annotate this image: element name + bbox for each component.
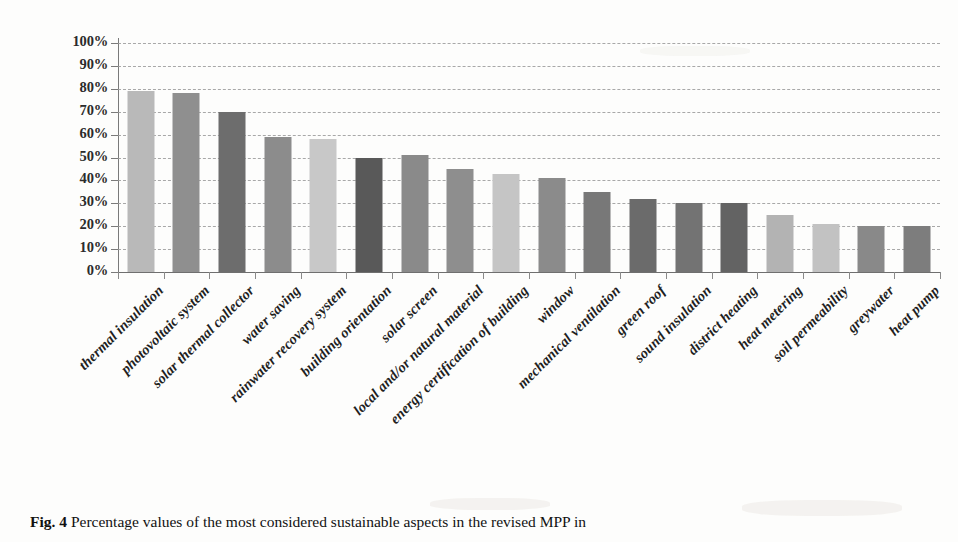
x-axis-label: window <box>533 282 578 327</box>
bar-chart: 100%90%80%70%60%50%40%30%20%10%0% <box>0 0 958 300</box>
scan-artifact <box>430 498 550 510</box>
bar-slot <box>757 43 803 272</box>
bar-slot <box>255 43 301 272</box>
x-tick <box>666 272 667 279</box>
x-tick <box>894 272 895 279</box>
x-tick <box>712 272 713 279</box>
figure-caption-label: Fig. 4 <box>30 513 67 530</box>
bar-slot <box>346 43 392 272</box>
bar[interactable] <box>538 178 565 272</box>
bar-slot <box>712 43 758 272</box>
bar[interactable] <box>173 93 200 272</box>
bar-slot <box>529 43 575 272</box>
y-tick-label-30: 30% <box>42 193 108 210</box>
x-tick <box>164 272 165 279</box>
bar-slot <box>575 43 621 272</box>
bar[interactable] <box>447 169 474 272</box>
x-tick <box>575 272 576 279</box>
figure-page: 100%90%80%70%60%50%40%30%20%10%0% therma… <box>0 0 958 542</box>
x-tick <box>209 272 210 279</box>
y-tick-label-70: 70% <box>42 102 108 119</box>
bar[interactable] <box>310 139 337 272</box>
y-tick-label-20: 20% <box>42 216 108 233</box>
x-tick <box>940 272 941 279</box>
bar-slot <box>849 43 895 272</box>
bar[interactable] <box>219 112 246 272</box>
bar[interactable] <box>858 226 885 272</box>
bar-slot <box>438 43 484 272</box>
figure-caption-text: Percentage values of the most considered… <box>71 513 586 530</box>
bar-slot <box>392 43 438 272</box>
bar-slot <box>483 43 529 272</box>
bar[interactable] <box>127 91 154 272</box>
y-tick-label-50: 50% <box>42 148 108 165</box>
x-tick <box>529 272 530 279</box>
bar[interactable] <box>630 199 657 272</box>
y-tick-label-60: 60% <box>42 125 108 142</box>
bar[interactable] <box>401 155 428 272</box>
y-tick-label-10: 10% <box>42 239 108 256</box>
bar[interactable] <box>493 174 520 272</box>
figure-caption: Fig. 4 Percentage values of the most con… <box>30 512 935 532</box>
bar-slot <box>164 43 210 272</box>
y-tick-label-90: 90% <box>42 56 108 73</box>
x-axis-label: thermal insulation <box>75 282 167 374</box>
bar[interactable] <box>904 226 931 272</box>
bar-series <box>118 43 940 272</box>
bar-slot <box>209 43 255 272</box>
x-tick <box>803 272 804 279</box>
x-axis-labels: thermal insulationphotovoltaic systemsol… <box>0 282 958 492</box>
bar-slot <box>666 43 712 272</box>
y-tick-label-80: 80% <box>42 79 108 96</box>
bar-slot <box>803 43 849 272</box>
x-tick <box>483 272 484 279</box>
bar[interactable] <box>767 215 794 272</box>
x-tick <box>620 272 621 279</box>
x-tick <box>346 272 347 279</box>
bar[interactable] <box>812 224 839 272</box>
x-tick <box>301 272 302 279</box>
bar-slot <box>301 43 347 272</box>
x-tick <box>849 272 850 279</box>
y-tick-label-100: 100% <box>42 33 108 50</box>
bar-slot <box>894 43 940 272</box>
x-tick <box>757 272 758 279</box>
x-tick <box>438 272 439 279</box>
bar-slot <box>620 43 666 272</box>
bar[interactable] <box>356 158 383 273</box>
bar[interactable] <box>264 137 291 272</box>
bar[interactable] <box>675 203 702 272</box>
bar[interactable] <box>721 203 748 272</box>
bar[interactable] <box>584 192 611 272</box>
x-tick <box>255 272 256 279</box>
x-tick <box>118 272 119 279</box>
y-tick-label-0: 0% <box>42 262 108 279</box>
bar-slot <box>118 43 164 272</box>
y-tick-label-40: 40% <box>42 170 108 187</box>
x-tick <box>392 272 393 279</box>
